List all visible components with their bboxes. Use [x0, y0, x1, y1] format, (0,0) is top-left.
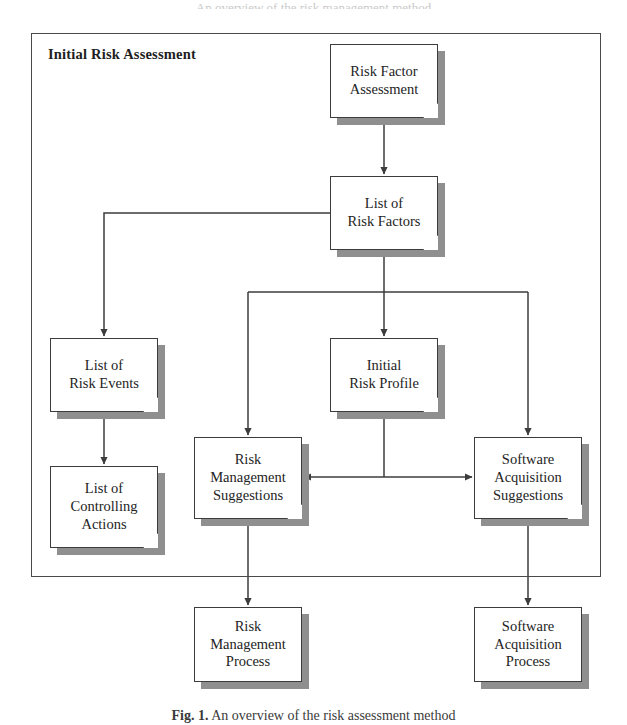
folded-corner-icon — [143, 397, 158, 412]
node-label: Initial Risk Profile — [345, 357, 423, 392]
clipped-page-text: An overview of the risk management metho… — [0, 0, 627, 9]
figure-canvas: An overview of the risk management metho… — [0, 0, 627, 725]
figure-caption-prefix: Fig. 1. — [172, 708, 209, 723]
node-risk-factor-assessment[interactable]: Risk Factor Assessment — [330, 44, 438, 118]
node-label: List of Risk Events — [65, 357, 143, 392]
node-label: Risk Factor Assessment — [346, 63, 422, 98]
group-title-label: Initial Risk Assessment — [48, 46, 196, 63]
node-face: Risk Factor Assessment — [330, 44, 438, 118]
figure-caption: Fig. 1. An overview of the risk assessme… — [0, 708, 627, 724]
node-face: List of Risk Factors — [330, 176, 438, 250]
node-face: Risk Management Process — [194, 607, 302, 682]
node-label: Software Acquisition Suggestions — [489, 451, 567, 504]
node-face: Software Acquisition Process — [474, 607, 582, 682]
node-face: List of Risk Events — [50, 338, 158, 412]
node-face: Risk Management Suggestions — [194, 437, 302, 519]
node-list-of-risk-factors[interactable]: List of Risk Factors — [330, 176, 438, 250]
folded-corner-icon — [423, 235, 438, 250]
folded-corner-icon — [423, 397, 438, 412]
node-initial-risk-profile[interactable]: Initial Risk Profile — [330, 338, 438, 412]
node-face: Initial Risk Profile — [330, 338, 438, 412]
folded-corner-icon — [287, 504, 302, 519]
node-label: List of Controlling Actions — [67, 480, 142, 533]
node-face: Software Acquisition Suggestions — [474, 437, 582, 519]
figure-caption-text: An overview of the risk assessment metho… — [211, 708, 455, 723]
node-risk-management-suggestions[interactable]: Risk Management Suggestions — [194, 437, 302, 519]
node-label: List of Risk Factors — [344, 195, 425, 230]
folded-corner-icon — [567, 504, 582, 519]
node-list-of-risk-events[interactable]: List of Risk Events — [50, 338, 158, 412]
node-software-acquisition-process[interactable]: Software Acquisition Process — [474, 607, 582, 682]
node-label: Risk Management Process — [206, 618, 290, 671]
node-label: Software Acquisition Process — [490, 618, 566, 671]
node-face: List of Controlling Actions — [50, 466, 158, 548]
node-label: Risk Management Suggestions — [206, 451, 290, 504]
node-software-acquisition-suggestions[interactable]: Software Acquisition Suggestions — [474, 437, 582, 519]
folded-corner-icon — [143, 533, 158, 548]
node-risk-management-process[interactable]: Risk Management Process — [194, 607, 302, 682]
node-list-of-controlling-actions[interactable]: List of Controlling Actions — [50, 466, 158, 548]
folded-corner-icon — [423, 103, 438, 118]
